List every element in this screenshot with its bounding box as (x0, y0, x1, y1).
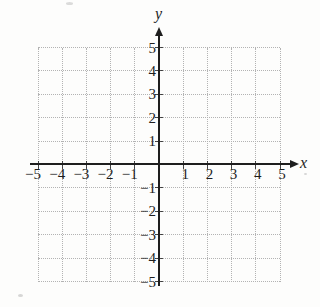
y-tick-label: 1 (122, 133, 156, 149)
y-tick-label: 5 (122, 40, 156, 56)
x-tick-label: −4 (49, 166, 65, 182)
y-tick-label: 3 (122, 86, 156, 102)
y-tick-mark (155, 211, 163, 212)
x-tick-label: −3 (73, 166, 89, 182)
y-axis-label: y (155, 6, 162, 22)
y-tick-mark (155, 258, 163, 259)
x-tick-label: 4 (254, 166, 262, 182)
y-tick-mark (155, 187, 163, 188)
scan-artifact (66, 2, 73, 5)
y-tick-mark (155, 47, 163, 48)
y-tick-label: −2 (122, 203, 156, 219)
y-tick-mark (155, 70, 163, 71)
y-tick-mark (155, 234, 163, 235)
x-tick-label: 5 (278, 166, 286, 182)
y-tick-label: −5 (122, 274, 156, 290)
y-tick-label: −3 (122, 227, 156, 243)
x-tick-label: 1 (181, 166, 189, 182)
y-tick-label: 4 (122, 63, 156, 79)
tick-layer: −5−4−3−2−112345−5−4−3−2−112345 (0, 0, 320, 307)
y-tick-mark (155, 117, 163, 118)
x-tick-label: 3 (230, 166, 238, 182)
y-tick-mark (155, 141, 163, 142)
y-tick-label: 2 (122, 110, 156, 126)
x-tick-label: −5 (25, 166, 41, 182)
y-tick-label: −4 (122, 250, 156, 266)
scan-artifact (18, 294, 23, 297)
x-tick-label: 2 (206, 166, 214, 182)
coordinate-plane: −5−4−3−2−112345−5−4−3−2−112345 x y (0, 0, 320, 307)
y-tick-mark (155, 281, 163, 282)
x-axis-label: x (300, 155, 307, 171)
x-tick-label: −2 (98, 166, 114, 182)
scan-artifact (304, 173, 307, 175)
y-tick-mark (155, 94, 163, 95)
y-tick-label: −1 (122, 180, 156, 196)
